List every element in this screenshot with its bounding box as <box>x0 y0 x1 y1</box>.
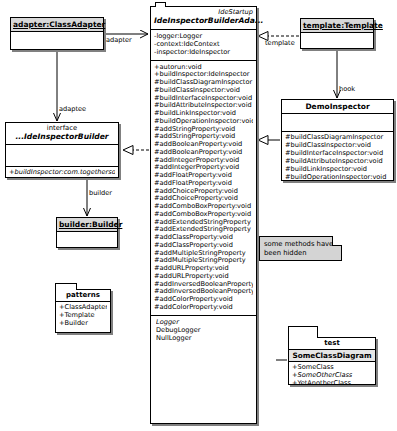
operation-item: #addURLProperty:void <box>154 265 253 273</box>
operation-item: +buildInspector:com.togetherso <box>9 169 115 177</box>
nested-type-item: Logger <box>156 319 253 327</box>
operation-item: #buildClassInspector:void <box>154 87 253 95</box>
operation-item: #buildLinkInspector:void <box>285 166 390 174</box>
nested-type-item: NullLogger <box>156 335 253 343</box>
operation-item: #buildClassDiagramInspector <box>154 79 253 87</box>
class-adapter-classadapter[interactable]: adapter:ClassAdapter <box>10 17 104 50</box>
package-tab-icon <box>55 283 77 290</box>
operation-item: #addMultipleStringProperty <box>154 257 253 265</box>
operation-item: #addInversedBooleanProperty <box>154 281 253 289</box>
diagram-canvas: adapter adaptee builder template hook ad… <box>0 0 397 431</box>
operation-item: #buildOperationInspector:void <box>285 174 390 182</box>
class-demoinspector[interactable]: DemoInspector #buildClassDiagramInspecto… <box>281 99 394 181</box>
class-template-template[interactable]: template:Template <box>300 18 374 49</box>
interface-name: ...IdeInspectorBuilder <box>8 132 116 142</box>
operation-item: #addChoiceProperty:void <box>154 188 253 196</box>
operation-item: #addColorProperty:void <box>154 296 253 304</box>
operation-item: #buildClassInspector:void <box>285 142 390 150</box>
operation-item: #addIntegerProperty:void <box>154 164 253 172</box>
package-tab-icon <box>155 2 166 7</box>
class-title: adapter:ClassAdapter <box>11 18 103 32</box>
operation-item: #addStringProperty:void <box>154 126 253 134</box>
package-item: +YetAnotherClass <box>292 380 372 388</box>
edge-label-adaptee: adaptee <box>59 105 86 113</box>
class-ideinspectorbuilderadapter[interactable]: IdeStartup IdeInspectorBuilderAda... -lo… <box>150 6 257 424</box>
operation-item: #addURLProperty:void <box>154 273 253 281</box>
package-contents: +ClassAdapter +Template +Builder <box>56 302 110 330</box>
edge-label-builder: builder <box>89 189 112 197</box>
package-test[interactable]: test SomeClassDiagram +SomeClass +SomeOt… <box>288 337 376 385</box>
attribute-item: -context:IdeContext <box>154 41 253 49</box>
operation-item: #addClassProperty:void <box>154 242 253 250</box>
edge-generalization-demo <box>258 136 280 145</box>
edge-label-adapter: adapter <box>106 36 132 44</box>
operation-item: #addExtendedStringProperty <box>154 226 253 234</box>
interface-operations: +buildInspector:com.togetherso <box>6 166 118 179</box>
operation-item: #buildAttributeInspector:void <box>154 102 253 110</box>
stereotype-label: interface <box>8 124 116 132</box>
operation-item: #addStringProperty:void <box>154 133 253 141</box>
package-patterns[interactable]: patterns +ClassAdapter +Template +Builde… <box>55 289 111 333</box>
class-operations: #buildClassDiagramInspector #buildClassI… <box>282 131 393 183</box>
package-tab-icon <box>288 326 318 338</box>
operation-item: #addComboBoxProperty:void <box>154 203 253 211</box>
class-ideinspectorbuilder-interface[interactable]: interface ...IdeInspectorBuilder +buildI… <box>5 122 119 178</box>
operation-item: +autorun:void <box>154 64 253 72</box>
note-text: some methods have been hidden <box>264 240 333 257</box>
class-name-someclassdiagram: SomeClassDiagram <box>289 350 375 362</box>
class-name: IdeInspectorBuilderAda... <box>154 16 253 26</box>
class-attributes <box>282 114 393 131</box>
class-body-empty <box>11 32 103 48</box>
attribute-item: -inspector:IdeInspector <box>154 49 253 57</box>
attribute-item: -logger:Logger <box>154 33 253 41</box>
package-item: +SomeClass <box>292 364 372 372</box>
operation-item: #addMultipleStringProperty <box>154 250 253 258</box>
operation-item: #buildAttributeInspector:void <box>285 158 390 166</box>
package-qualifier: IdeStartup <box>154 8 253 16</box>
package-name: patterns <box>56 290 110 302</box>
edge-builder <box>84 178 91 216</box>
operation-item: #addClassProperty:void <box>154 234 253 242</box>
class-title: DemoInspector <box>282 100 393 114</box>
class-operations: +autorun:void +buildInspector:IdeInspect… <box>151 60 256 315</box>
operation-item: +buildInspector:IdeInspector <box>154 71 253 79</box>
operation-item: #buildOperationInspector:void <box>154 118 253 126</box>
class-nested-types: Logger DebugLogger NullLogger <box>151 315 256 346</box>
interface-attributes <box>6 144 118 166</box>
operation-item: #addIntegerProperty:void <box>154 157 253 165</box>
class-header: IdeStartup IdeInspectorBuilderAda... <box>151 7 256 29</box>
package-item: +Builder <box>59 320 107 328</box>
edge-realization <box>123 146 149 155</box>
class-title: template:Template <box>301 19 373 33</box>
package-item: +ClassAdapter <box>59 304 107 312</box>
operation-item: #addInversedBooleanProperty <box>154 288 253 296</box>
package-item: +Template <box>59 312 107 320</box>
class-attributes: -logger:Logger -context:IdeContext -insp… <box>151 29 256 60</box>
operation-item: #addFloatProperty:void <box>154 180 253 188</box>
nested-type-item: DebugLogger <box>156 327 253 335</box>
operation-item: #addChoiceProperty:void <box>154 195 253 203</box>
class-body-empty <box>57 232 117 246</box>
operation-item: #buildClassDiagramInspector <box>285 134 390 142</box>
operation-item: #addBooleanProperty:void <box>154 149 253 157</box>
operation-item: #addColorProperty:void <box>154 304 253 312</box>
operation-item: #addExtendedStringProperty <box>154 219 253 227</box>
class-body-empty <box>301 33 373 47</box>
note-fold-corner-icon <box>332 236 342 246</box>
class-builder-builder[interactable]: builder:Builder <box>56 217 118 248</box>
operation-item: #buildInterfaceInspector:void <box>154 95 253 103</box>
operation-item: #buildLinkInspector:void <box>154 110 253 118</box>
operation-item: #addComboBoxProperty:void <box>154 211 253 219</box>
operation-item: #addBooleanProperty:void <box>154 141 253 149</box>
note-some-methods-hidden[interactable]: some methods have been hidden <box>259 236 342 261</box>
package-name: test <box>289 338 375 350</box>
class-title: builder:Builder <box>57 218 117 232</box>
package-contents: +SomeClass +SomeOtherClass +YetAnotherCl… <box>289 362 375 390</box>
package-item: +SomeOtherClass <box>292 372 372 380</box>
edge-label-template: template <box>265 39 295 47</box>
interface-header: interface ...IdeInspectorBuilder <box>6 123 118 144</box>
edge-label-hook: hook <box>339 85 355 93</box>
operation-item: #buildInterfaceInspector:void <box>285 150 390 158</box>
operation-item: #addFloatProperty:void <box>154 172 253 180</box>
